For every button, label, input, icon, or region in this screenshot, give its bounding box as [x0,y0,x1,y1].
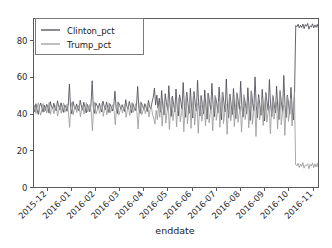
y-tick-label: 60 [17,72,28,82]
y-tick-label: 40 [17,109,28,119]
line-chart-plot: 020406080 2015-122016-012016-022016-0320… [0,0,332,248]
legend-label-clinton: Clinton_pct [67,26,115,36]
y-axis-ticks: 020406080 [17,36,34,193]
y-tick-label: 0 [22,183,27,193]
y-tick-label: 20 [17,146,28,156]
x-axis-ticks: 2015-122016-012016-022016-032016-042016-… [16,188,314,222]
legend-label-trump: Trump_pct [66,40,112,50]
chart-figure: 020406080 2015-122016-012016-022016-0320… [0,0,332,248]
chart-legend[interactable]: Clinton_pct Trump_pct [36,19,144,55]
x-axis-title: enddate [155,225,194,236]
y-tick-label: 80 [17,36,28,46]
